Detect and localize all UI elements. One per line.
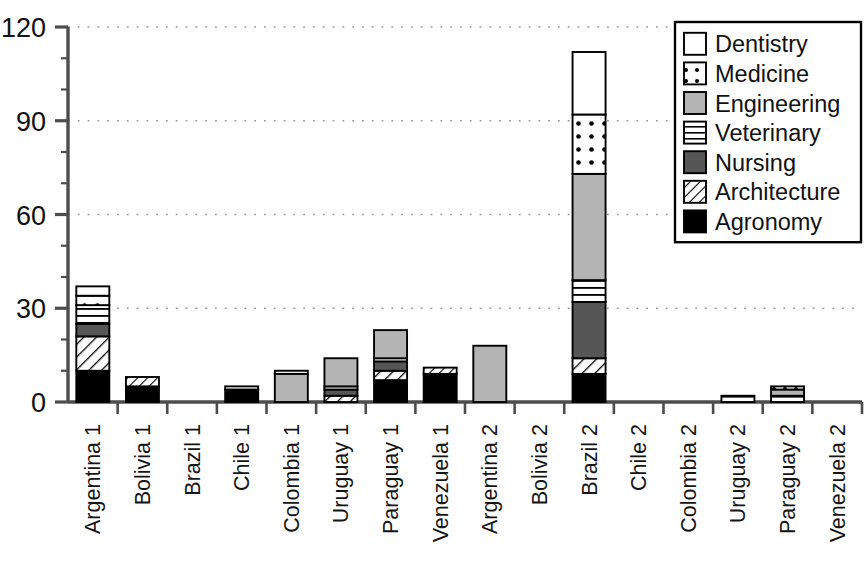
bar-segment-architecture xyxy=(76,336,109,370)
bar-segment-dentistry xyxy=(573,52,606,115)
y-tick-label-60: 60 xyxy=(16,201,46,231)
y-axis-tick-labels: 0306090120 xyxy=(1,13,46,418)
x-label-uruguay-2: Uruguay 2 xyxy=(726,424,750,523)
bar-paraguay-2 xyxy=(771,386,804,402)
bar-chile-1 xyxy=(225,386,258,402)
legend-swatch-veterinary xyxy=(684,122,706,144)
x-label-chile-2: Chile 2 xyxy=(627,424,651,491)
x-label-argentina-2: Argentina 2 xyxy=(478,424,502,534)
y-tick-label-120: 120 xyxy=(1,13,46,43)
bar-segment-engineering xyxy=(324,358,357,386)
x-label-colombia-1: Colombia 1 xyxy=(280,424,304,533)
stacked-bar-chart: 0306090120 Argentina 1Bolivia 1Brazil 1C… xyxy=(0,0,865,566)
legend: DentistryMedicineEngineeringVeterinaryNu… xyxy=(675,22,861,242)
bar-argentina-1 xyxy=(76,286,109,402)
bar-venezuela-1 xyxy=(424,368,457,402)
x-label-bolivia-1: Bolivia 1 xyxy=(131,424,155,505)
bar-segment-medicine xyxy=(573,115,606,174)
bar-segment-architecture xyxy=(374,371,407,380)
bar-brazil-2 xyxy=(573,52,606,402)
bar-uruguay-2 xyxy=(721,396,754,402)
bar-segment-veterinary xyxy=(76,305,109,324)
bar-segment-nursing xyxy=(76,324,109,337)
x-label-brazil-2: Brazil 2 xyxy=(578,424,602,496)
legend-label-architecture: Architecture xyxy=(715,179,840,205)
bar-colombia-1 xyxy=(275,371,308,402)
bar-paraguay-1 xyxy=(374,330,407,402)
x-axis-category-labels: Argentina 1Bolivia 1Brazil 1Chile 1Colom… xyxy=(81,424,849,542)
bar-bolivia-1 xyxy=(126,377,159,402)
bar-segment-engineering xyxy=(374,330,407,358)
y-tick-label-90: 90 xyxy=(16,107,46,137)
legend-label-engineering: Engineering xyxy=(715,91,840,117)
bar-segment-architecture xyxy=(126,377,159,386)
bar-segment-medicine xyxy=(771,386,804,389)
bar-segment-dentistry xyxy=(76,286,109,295)
legend-swatch-engineering xyxy=(684,92,706,114)
bar-segment-medicine xyxy=(275,371,308,374)
legend-label-veterinary: Veterinary xyxy=(715,120,821,146)
bar-segment-architecture xyxy=(424,368,457,374)
bar-segment-nursing xyxy=(374,361,407,370)
legend-label-nursing: Nursing xyxy=(715,150,796,176)
bar-segment-agronomy xyxy=(126,386,159,402)
x-label-venezuela-2: Venezuela 2 xyxy=(826,424,850,542)
x-label-chile-1: Chile 1 xyxy=(230,424,254,491)
legend-swatch-medicine xyxy=(684,62,706,84)
y-tick-label-0: 0 xyxy=(31,388,46,418)
bar-uruguay-1 xyxy=(324,358,357,402)
x-label-bolivia-2: Bolivia 2 xyxy=(528,424,552,505)
bar-segment-medicine xyxy=(76,296,109,305)
bar-segment-agronomy xyxy=(225,390,258,403)
bar-segment-engineering xyxy=(275,374,308,402)
legend-label-medicine: Medicine xyxy=(715,61,809,87)
x-label-colombia-2: Colombia 2 xyxy=(677,424,701,533)
bar-argentina-2 xyxy=(473,346,506,402)
bar-segment-veterinary xyxy=(225,386,258,389)
bar-segment-agronomy xyxy=(374,380,407,402)
legend-label-dentistry: Dentistry xyxy=(715,31,808,57)
x-label-argentina-1: Argentina 1 xyxy=(81,424,105,534)
bar-segment-veterinary xyxy=(721,396,754,402)
x-label-paraguay-2: Paraguay 2 xyxy=(776,424,800,534)
bar-segment-nursing xyxy=(573,302,606,358)
legend-swatch-agronomy xyxy=(684,210,706,232)
bar-segment-agronomy xyxy=(424,374,457,402)
chart-container: 0306090120 Argentina 1Bolivia 1Brazil 1C… xyxy=(0,0,865,566)
legend-label-agronomy: Agronomy xyxy=(715,209,822,235)
bar-segment-agronomy xyxy=(76,371,109,402)
bar-segment-agronomy xyxy=(573,374,606,402)
bar-segment-veterinary xyxy=(573,280,606,302)
bar-segment-engineering xyxy=(473,346,506,402)
bar-segment-engineering xyxy=(573,174,606,280)
legend-swatch-nursing xyxy=(684,151,706,173)
legend-swatch-architecture xyxy=(684,181,706,203)
bar-segment-architecture xyxy=(573,358,606,374)
x-label-uruguay-1: Uruguay 1 xyxy=(329,424,353,523)
legend-swatch-dentistry xyxy=(684,33,706,55)
y-tick-label-30: 30 xyxy=(16,294,46,324)
x-label-paraguay-1: Paraguay 1 xyxy=(379,424,403,534)
x-label-brazil-1: Brazil 1 xyxy=(181,424,205,496)
x-label-venezuela-1: Venezuela 1 xyxy=(429,424,453,542)
